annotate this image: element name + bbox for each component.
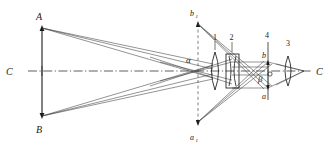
ray-a1-2: [198, 64, 272, 122]
label-virtual-top-b1: b 1: [190, 9, 198, 19]
ray-bundle-from-a1: [198, 61, 272, 122]
label-element-3: 3: [286, 39, 290, 48]
label-element-4: 4: [265, 31, 269, 40]
label-virtual-bottom-a1-subscript: 1: [195, 138, 198, 143]
label-object-bottom-B: B: [36, 124, 42, 135]
label-virtual-bottom-a1: a 1: [190, 133, 198, 143]
exit-cone-to-C: [268, 62, 304, 88]
label-image-bottom-a: a: [262, 92, 266, 101]
exit-ray-inner-bottom: [276, 71, 304, 85]
beta-circle: [268, 72, 272, 76]
ray-A-3: [42, 28, 213, 78]
label-virtual-top-b1-subscript: 1: [195, 14, 198, 19]
label-intermediate-image-alpha: α: [186, 55, 191, 65]
biconcave-surface-right: [234, 56, 236, 86]
label-object-top-A: A: [35, 11, 43, 22]
collimated-beam-segment: [232, 62, 268, 88]
beta-marker: [268, 72, 272, 76]
label-virtual-top-b1-base: b: [190, 9, 194, 18]
label-axis-left-C: C: [6, 66, 13, 77]
label-element-2: 2: [230, 33, 234, 42]
ray-B-1: [42, 79, 213, 116]
label-final-image-beta: β: [257, 74, 263, 84]
label-axis-right-C: C: [316, 66, 323, 77]
label-element-1: 1: [213, 33, 217, 42]
ray-B-3: [42, 65, 213, 116]
ray-diagram-canvas: A B C C α β b a b 1 a 1 1 2 3 4: [0, 0, 328, 147]
label-virtual-bottom-a1-base: a: [190, 133, 194, 142]
ray-B-2: [42, 74, 213, 116]
optical-ray-diagram: A B C C α β b a b 1 a 1 1 2 3 4: [0, 0, 328, 147]
ray-bundle-from-B: [42, 65, 213, 116]
ray-bundle-from-A: [42, 28, 213, 78]
label-image-top-b: b: [262, 51, 266, 60]
exit-ray-inner-top: [276, 64, 304, 71]
